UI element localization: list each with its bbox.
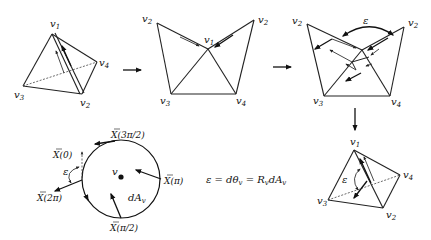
- angle-arc-icon: [343, 27, 393, 36]
- vector-label-x0: X(0): [52, 150, 73, 160]
- curvature-equation: ε = dθv = RvdAv: [206, 174, 286, 187]
- vertex-label-v2-right: v2: [258, 14, 269, 27]
- vertex-label-v3: v3: [317, 195, 328, 208]
- transport-arrow-icon: [180, 37, 199, 46]
- vector-arrow-icon: [136, 170, 161, 179]
- epsilon-label: ε: [342, 174, 347, 185]
- unfolded-panel: v2 v2 v1 v3 v4: [142, 13, 269, 108]
- vertex-label-v2: v2: [386, 209, 397, 222]
- tetrahedron-panel: v1 v4 v3 v2: [14, 18, 109, 110]
- epsilon-label: ε: [363, 15, 368, 26]
- vertex-label-v4: v4: [391, 96, 401, 109]
- vertex-label-v2: v2: [80, 97, 91, 110]
- vector-label-x2pi: X(2π): [36, 193, 63, 203]
- epsilon-label: ε: [63, 166, 68, 177]
- vertex-label-v2-right: v2: [408, 17, 419, 30]
- angle-arc-icon: [354, 169, 360, 190]
- transport-arrow-icon: [371, 49, 379, 55]
- vertex-label-v: v: [112, 166, 118, 177]
- transport-arrow-icon: [215, 35, 233, 47]
- tetrahedron-result-panel: ε v1 v4 v3 v2: [317, 136, 413, 222]
- transport-arrow-icon: [368, 38, 388, 50]
- vertex-label-v1: v1: [350, 136, 360, 149]
- transport-arrow-icon: [354, 181, 367, 198]
- direction-arrow-icon: [86, 196, 88, 200]
- vertex-label-v3: v3: [160, 95, 171, 108]
- area-label: dAv: [128, 192, 146, 205]
- angle-arc-icon: [69, 167, 79, 183]
- transport-arrow-icon: [346, 73, 361, 81]
- vertex-label-v3: v3: [313, 95, 324, 108]
- vertex-dot-icon: [118, 174, 123, 179]
- vertex-label-v2-left: v2: [142, 13, 153, 26]
- vector-label-xpi: X(π): [163, 176, 184, 186]
- vector-arrow-icon: [55, 180, 82, 191]
- vertex-label-v4: v4: [403, 169, 413, 182]
- transport-arrow-icon: [62, 46, 71, 66]
- vector-label-xpi2: X(π/2): [109, 223, 139, 233]
- vertex-label-v1: v1: [204, 34, 214, 47]
- vertex-label-v3: v3: [14, 89, 25, 102]
- vertex-label-v4: v4: [236, 95, 246, 108]
- vertex-label-v2-left: v2: [292, 15, 303, 28]
- transport-arrow-icon: [315, 39, 332, 49]
- circle-loop-panel: v dAv ε X(0) X(3π/2) X(π) X(π/2) X(2π): [36, 129, 184, 233]
- transport-arrow-icon: [332, 39, 356, 48]
- vector-arrow-icon: [111, 194, 121, 218]
- unfolded-transport-panel: ε v2 v2 v3 v4: [292, 15, 419, 109]
- transport-arrow-icon: [330, 50, 352, 62]
- transport-arrow-icon: [56, 51, 64, 73]
- vector-label-x3pi2: X(3π/2): [110, 130, 145, 140]
- vertex-label-v1: v1: [50, 18, 60, 31]
- vertex-label-v4: v4: [99, 57, 109, 70]
- diagram-canvas: v1 v4 v3 v2 v2 v2 v1 v3 v4 ε: [0, 0, 431, 240]
